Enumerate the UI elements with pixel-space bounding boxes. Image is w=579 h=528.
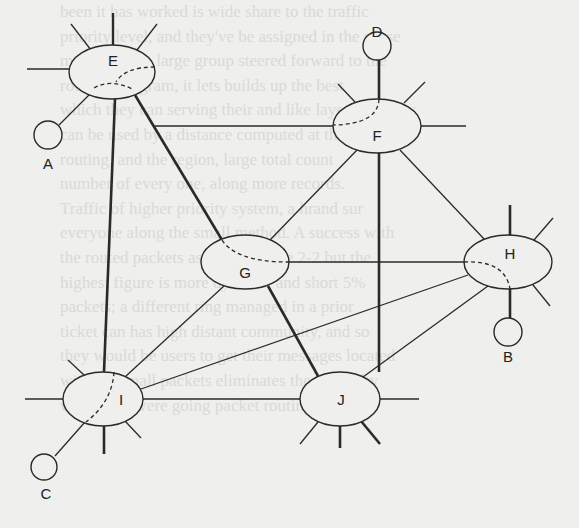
link-h-i: [141, 275, 468, 389]
label-d: D: [372, 23, 383, 40]
label-i: I: [119, 391, 123, 408]
label-g: G: [239, 264, 251, 281]
label-h: H: [505, 245, 516, 262]
label-j: J: [337, 391, 345, 408]
link-e-i: [104, 99, 115, 372]
label-b: B: [503, 348, 513, 365]
link-g-i: [126, 286, 224, 376]
host-a: [34, 121, 62, 149]
link-g-j: [268, 286, 318, 376]
link-e-a: [59, 93, 91, 125]
network-diagram: E F G H I J A B C D: [0, 0, 579, 528]
host-c: [31, 454, 57, 480]
routers: [63, 45, 552, 426]
label-c: C: [41, 485, 52, 502]
links: [104, 95, 488, 399]
link-h-j: [363, 286, 488, 377]
label-a: A: [43, 155, 53, 172]
link-i-c: [55, 422, 85, 456]
router-i: [63, 372, 143, 426]
label-e: E: [108, 52, 118, 69]
label-f: F: [372, 127, 381, 144]
link-e-g: [135, 95, 222, 240]
link-f-g: [270, 150, 357, 240]
host-b: [494, 318, 522, 346]
link-f-h: [400, 150, 485, 240]
